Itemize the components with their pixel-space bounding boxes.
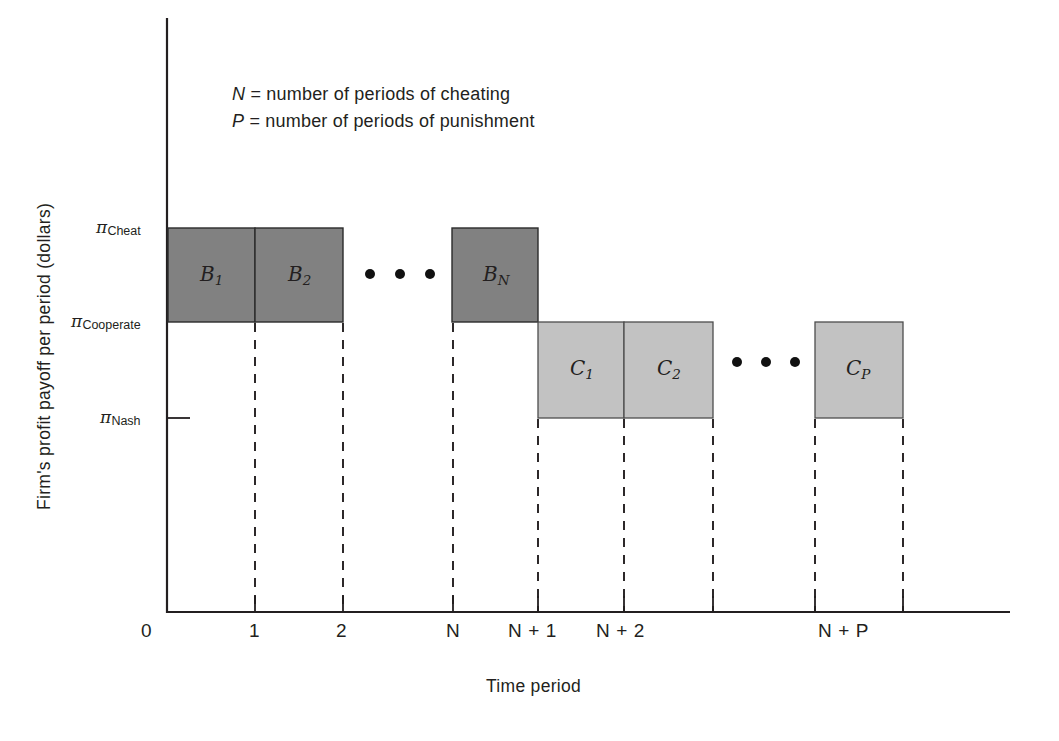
bar-label-B2-sub: 2 xyxy=(303,272,312,288)
bar-label-B2-base: B xyxy=(288,262,303,286)
figure-container: πCheat πCooperate πNash B1 B2 BN C1 C2 C… xyxy=(0,0,1059,741)
bar-label-CP-sub: P xyxy=(861,366,870,382)
ellipsis-dot-benefit-3 xyxy=(425,269,435,279)
note-text-P: = number of periods of punishment xyxy=(244,111,534,131)
ellipsis-dot-cost-1 xyxy=(732,357,742,367)
pi-symbol-cooperate: π xyxy=(71,311,82,331)
bar-label-CP-base: C xyxy=(846,356,861,380)
pi-subscript-nash: Nash xyxy=(111,414,140,428)
note-symbol-N: N xyxy=(232,84,245,104)
bar-label-BN-sub: N xyxy=(498,272,510,288)
bar-label-CP: CP xyxy=(846,358,870,382)
note-line-N: N = number of periods of cheating xyxy=(232,85,510,103)
bar-label-B2: B2 xyxy=(288,264,311,288)
note-symbol-P: P xyxy=(232,111,244,131)
bar-label-C2-sub: 2 xyxy=(672,366,681,382)
pi-subscript-cooperate: Cooperate xyxy=(82,318,140,332)
pi-symbol-nash: π xyxy=(100,407,111,427)
x-tick-label-0: 0 xyxy=(141,621,152,640)
ellipsis-dot-cost-2 xyxy=(761,357,771,367)
y-level-label-pi-cheat: πCheat xyxy=(96,219,141,238)
bar-label-B1: B1 xyxy=(200,264,223,288)
pi-subscript-cheat: Cheat xyxy=(107,224,140,238)
x-tick-label-N: N xyxy=(446,621,460,640)
pi-symbol-cheat: π xyxy=(96,217,107,237)
y-level-label-pi-cooperate: πCooperate xyxy=(71,313,141,332)
x-axis-title: Time period xyxy=(486,678,581,696)
y-level-label-pi-nash: πNash xyxy=(100,409,141,428)
bar-label-BN: BN xyxy=(483,264,510,288)
bar-label-C1: C1 xyxy=(570,358,594,382)
bar-label-C2: C2 xyxy=(657,358,681,382)
bar-label-B1-sub: 1 xyxy=(215,272,224,288)
page-bottom-edge xyxy=(0,734,1059,741)
ellipsis-dot-benefit-2 xyxy=(395,269,405,279)
y-axis-title: Firm's profit payoff per period (dollars… xyxy=(36,203,54,510)
bar-label-C2-base: C xyxy=(657,356,672,380)
x-tick-label-N-plus-P: N + P xyxy=(818,621,869,640)
note-text-N: = number of periods of cheating xyxy=(245,84,510,104)
note-line-P: P = number of periods of punishment xyxy=(232,112,535,130)
ellipsis-dot-cost-3 xyxy=(790,357,800,367)
bar-label-B1-base: B xyxy=(200,262,215,286)
x-tick-label-N-plus-2: N + 2 xyxy=(596,621,645,640)
x-tick-label-2: 2 xyxy=(336,621,347,640)
x-tick-label-N-plus-1: N + 1 xyxy=(508,621,557,640)
bar-label-C1-sub: 1 xyxy=(585,366,594,382)
bar-label-C1-base: C xyxy=(570,356,585,380)
ellipsis-dot-benefit-1 xyxy=(365,269,375,279)
x-tick-label-1: 1 xyxy=(249,621,260,640)
bar-label-BN-base: B xyxy=(483,262,498,286)
